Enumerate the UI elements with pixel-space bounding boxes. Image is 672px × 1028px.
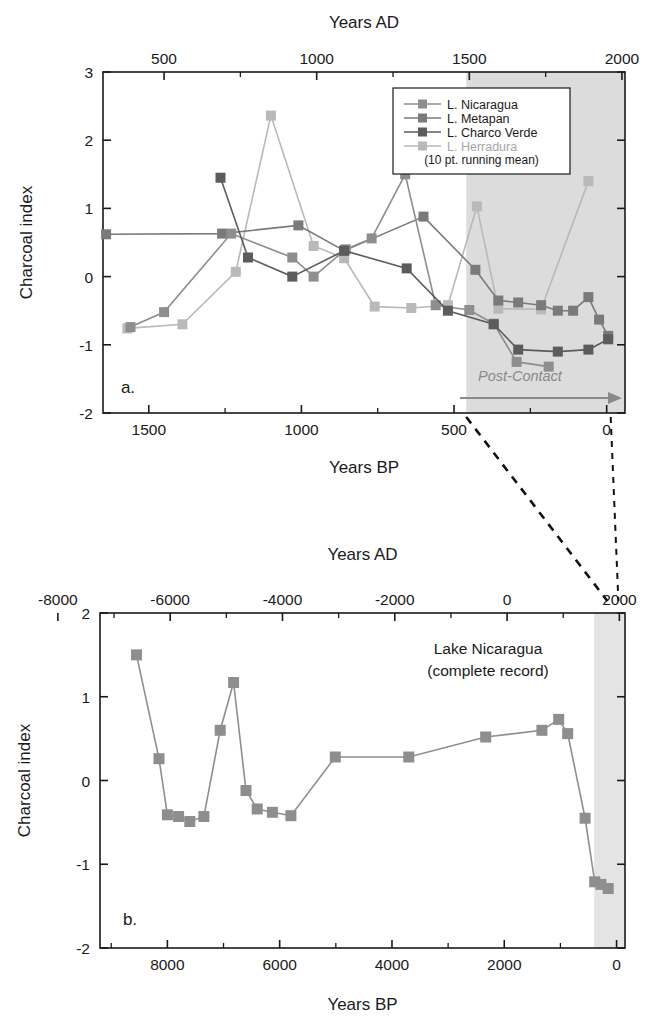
series-l-metapan-marker [553,306,563,316]
panel-b-bottom-tick-label: 4000 [375,956,410,973]
series-lake-nicaragua-complete-marker [267,807,278,818]
series-l-nicaragua-marker [159,307,169,317]
legend-swatch-marker [418,100,427,109]
series-l-metapan-marker [217,229,227,239]
panel-b-annotation-line2: (complete record) [427,662,548,679]
series-l-metapan-marker [583,292,593,302]
panel-b-y-axis-title: Charcoal index [15,723,34,837]
series-lake-nicaragua-complete-marker [580,813,591,824]
panel-a-bottom-tick-label: 0 [602,421,611,438]
series-l-herradura-marker [177,319,187,329]
series-lake-nicaragua-complete-marker [536,725,547,736]
panel-b: -8000-6000-4000-200002000800060004000200… [15,545,637,1014]
figure-root: 5001000150020001500100050003210-1-2Years… [0,0,672,1028]
series-lake-nicaragua-complete-marker [252,804,263,815]
panel-a-bottom-tick-label: 500 [441,421,467,438]
panel-a-top-axis-title: Years AD [329,13,399,32]
series-l-charco-verde-marker [443,306,453,316]
series-l-nicaragua-marker [464,305,474,315]
panel-b-bottom-tick-label: 2000 [487,956,522,973]
series-l-metapan-marker [419,212,429,222]
series-l-nicaragua-marker [226,229,236,239]
panel-b-top-axis-title: Years AD [327,545,397,564]
connector-dashed-right [611,417,619,601]
series-l-charco-verde-marker [287,272,297,282]
series-lake-nicaragua-complete-marker [131,649,142,660]
panel-a: 5001000150020001500100050003210-1-2Years… [17,13,640,477]
series-l-metapan-marker [470,265,480,275]
series-l-metapan-marker [513,298,523,308]
series-l-herradura-marker [472,201,482,211]
panel-b-y-tick-label: 0 [81,773,90,790]
panel-a-legend: L. NicaraguaL. MetapanL. Charco VerdeL. … [393,88,570,174]
panel-a-top-tick-label: 2000 [605,50,640,67]
series-lake-nicaragua-complete-marker [184,816,195,827]
legend-swatch-marker [418,128,427,137]
panel-b-top-tick-label: -6000 [150,591,190,608]
series-lake-nicaragua-complete-marker [198,811,209,822]
panel-b-series-layer [131,649,614,894]
series-l-herradura-marker [309,241,319,251]
series-lake-nicaragua-complete-marker [162,809,173,820]
panel-a-top-tick-label: 1500 [452,50,487,67]
series-lake-nicaragua-complete-marker [480,732,491,743]
series-l-nicaragua-marker [126,322,136,332]
series-l-charco-verde-marker [553,347,563,357]
panel-a-y-tick-label: 1 [84,200,93,217]
panel-a-y-tick-label: -1 [79,337,93,354]
series-l-charco-verde-marker [402,263,412,273]
series-l-herradura-marker [231,267,241,277]
panel-b-y-tick-label: -1 [76,856,90,873]
connector-dashed-left [466,417,607,601]
panel-a-bottom-tick-label: 1000 [284,421,319,438]
legend-entry-label: L. Herradura [447,140,517,154]
series-l-charco-verde-marker [603,334,613,344]
panel-b-bottom-tick-label: 8000 [150,956,185,973]
panel-b-top-tick-label: -4000 [263,591,303,608]
panel-b-bottom-axis-title: Years BP [327,995,397,1014]
series-lake-nicaragua-complete-marker [228,677,239,688]
panel-b-annotation-line1: Lake Nicaragua [434,640,543,657]
series-l-metapan-marker [101,229,111,239]
legend-entry-label: L. Nicaragua [447,98,518,112]
panel-b-y-tick-label: -2 [76,940,90,957]
panel-a-y-tick-label: 2 [84,132,93,149]
series-l-herradura-marker [370,302,380,312]
series-l-metapan-marker [293,220,303,230]
legend-entry-label: L. Charco Verde [447,126,537,140]
charcoal-index-figure: 5001000150020001500100050003210-1-2Years… [0,0,672,1028]
series-lake-nicaragua-complete-marker [285,810,296,821]
panel-a-y-tick-label: 0 [84,269,93,286]
series-l-nicaragua-marker [512,357,522,367]
panel-b-top-tick-label: -2000 [375,591,415,608]
series-lake-nicaragua-complete-marker [241,785,252,796]
series-l-charco-verde-marker [583,345,593,355]
panel-a-letter: a. [121,378,135,397]
series-lake-nicaragua-complete-marker [173,811,184,822]
series-l-herradura-marker [406,303,416,313]
series-lake-nicaragua-complete-marker [562,728,573,739]
panel-b-bottom-tick-label: 0 [612,956,621,973]
series-l-nicaragua-marker [544,362,554,372]
panel-b-bottom-tick-label: 6000 [262,956,297,973]
series-l-charco-verde-marker [243,253,253,263]
series-l-charco-verde-marker [216,173,226,183]
panel-a-y-tick-label: 3 [84,64,93,81]
series-l-nicaragua-marker [287,253,297,263]
panel-a-y-axis-title: Charcoal index [17,185,36,299]
series-lake-nicaragua-complete-line [137,655,609,889]
series-l-metapan-marker [594,315,604,325]
series-l-charco-verde-marker [339,246,349,256]
panel-a-top-tick-label: 1000 [299,50,334,67]
series-lake-nicaragua-complete-marker [215,725,226,736]
series-lake-nicaragua-complete-marker [330,752,341,763]
series-l-nicaragua-marker [367,233,377,243]
legend-entry-label: L. Metapan [447,112,510,126]
panel-b-top-tick-label: 0 [503,591,512,608]
series-lake-nicaragua-complete-marker [603,883,614,894]
panel-a-top-tick-label: 500 [151,50,177,67]
panel-a-bottom-tick-label: 1500 [132,421,167,438]
series-lake-nicaragua-complete-marker [154,753,165,764]
series-l-charco-verde-marker [513,345,523,355]
series-l-metapan-marker [568,306,578,316]
